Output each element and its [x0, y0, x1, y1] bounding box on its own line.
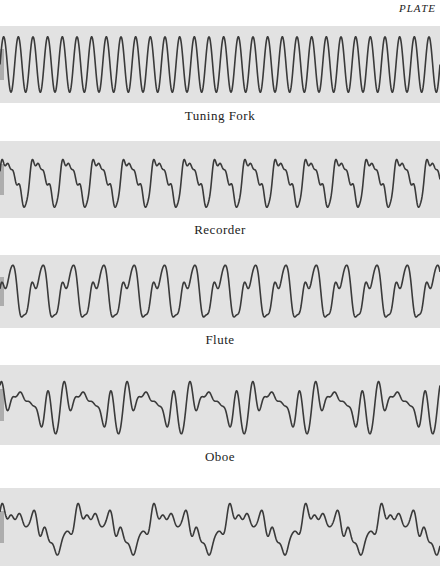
waveform-strip-tuning-fork — [0, 26, 440, 103]
waveform-trace — [0, 26, 440, 103]
caption-oboe: Oboe — [0, 449, 440, 465]
waveform-trace — [0, 255, 440, 328]
waveform-strip-recorder — [0, 141, 440, 218]
waveform-strip-unlabeled — [0, 488, 440, 566]
waveform-trace — [0, 141, 440, 218]
waveform-strip-flute — [0, 255, 440, 328]
waveform-strip-oboe — [0, 365, 440, 445]
plate-label: PLATE — [399, 2, 436, 14]
caption-flute: Flute — [0, 332, 440, 348]
waveform-trace — [0, 365, 440, 445]
caption-recorder: Recorder — [0, 222, 440, 238]
waveform-trace — [0, 488, 440, 566]
caption-tuning-fork: Tuning Fork — [0, 108, 440, 124]
